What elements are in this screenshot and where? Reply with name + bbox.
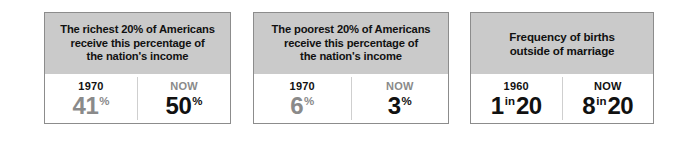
stat-unit: in: [505, 96, 515, 108]
panel-header-line: the nation's income: [272, 50, 431, 63]
panel-body: 1960 1in20 NOW 8in20: [471, 74, 653, 123]
panel-header-line: outside of marriage: [509, 44, 614, 58]
panel-header-line: Frequency of births: [509, 30, 614, 44]
stat-number: 3: [388, 93, 401, 119]
stat-number: 1: [491, 93, 504, 119]
stat-label: 1970: [290, 80, 315, 92]
stat-number: 50: [166, 93, 192, 119]
panel-header-text: The poorest 20% of Americans receive thi…: [272, 23, 431, 63]
stat-value: 3%: [388, 93, 412, 119]
panel-header: Frequency of births outside of marriage: [471, 13, 653, 74]
stat-cell-past: 1960 1in20: [471, 74, 562, 123]
stat-cell-past: 1970 6%: [254, 74, 351, 123]
stat-denominator: 20: [607, 93, 633, 119]
stat-cell-now: NOW 50%: [138, 74, 230, 123]
stat-number: 6: [290, 93, 303, 119]
stat-panel-poorest-20-percent: The poorest 20% of Americans receive thi…: [253, 12, 449, 124]
stat-label: NOW: [170, 80, 197, 92]
panel-header-line: receive this percentage of: [60, 37, 215, 50]
stat-value: 6%: [290, 93, 314, 119]
panel-header-text: The richest 20% of Americans receive thi…: [60, 23, 215, 63]
stat-value: 1in20: [491, 93, 542, 119]
stat-panel-births-outside-marriage: Frequency of births outside of marriage …: [470, 12, 654, 124]
stat-panel-richest-20-percent: The richest 20% of Americans receive thi…: [44, 12, 231, 124]
panel-header-line: the nation's income: [60, 50, 215, 63]
stat-unit: %: [304, 96, 314, 108]
stat-label: 1970: [78, 80, 103, 92]
stat-value: 50%: [166, 93, 203, 119]
panel-header-line: receive this percentage of: [272, 37, 431, 50]
panel-header-line: The poorest 20% of Americans: [272, 23, 431, 36]
stat-unit: in: [596, 96, 606, 108]
stat-number: 8: [582, 93, 595, 119]
stat-value: 41%: [73, 93, 110, 119]
stat-label: 1960: [504, 80, 529, 92]
stat-cell-past: 1970 41%: [45, 74, 137, 123]
stat-unit: %: [402, 96, 412, 108]
stat-label: NOW: [594, 80, 621, 92]
stat-label: NOW: [386, 80, 413, 92]
panel-header: The poorest 20% of Americans receive thi…: [254, 13, 448, 74]
stat-cell-now: NOW 3%: [352, 74, 449, 123]
infographic-statistics-panels: The richest 20% of Americans receive thi…: [0, 0, 700, 144]
stat-cell-now: NOW 8in20: [563, 74, 654, 123]
stat-denominator: 20: [516, 93, 542, 119]
stat-unit: %: [99, 96, 109, 108]
panel-body: 1970 41% NOW 50%: [45, 74, 230, 123]
panel-header-line: The richest 20% of Americans: [60, 23, 215, 36]
stat-value: 8in20: [582, 93, 633, 119]
stat-number: 41: [73, 93, 99, 119]
panel-header: The richest 20% of Americans receive thi…: [45, 13, 230, 74]
panel-header-text: Frequency of births outside of marriage: [509, 30, 614, 58]
panel-body: 1970 6% NOW 3%: [254, 74, 448, 123]
stat-unit: %: [192, 96, 202, 108]
